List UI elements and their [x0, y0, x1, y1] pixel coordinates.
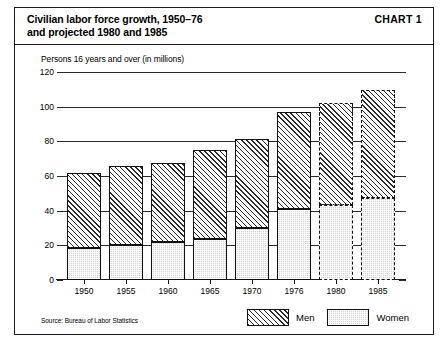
y-axis-tick-right: [399, 72, 406, 73]
y-axis-tick-label: 60: [45, 171, 54, 181]
y-axis-tick: [57, 107, 63, 108]
bar-segment-men: [193, 150, 227, 239]
x-axis-tick-label: 1950: [75, 286, 94, 296]
chart-card: Civilian labor force growth, 1950–76 and…: [14, 7, 434, 335]
y-axis-tick-right: [399, 245, 406, 246]
bar-group: 1960: [151, 163, 185, 280]
bar-group: 1950: [67, 173, 101, 280]
bar-segment-women: [319, 205, 353, 280]
bar-segment-women: [193, 239, 227, 280]
bar-segment-men: [277, 112, 311, 209]
y-axis-tick-right: [399, 280, 406, 281]
bar-group: 1980: [319, 103, 353, 280]
bar-group: 1965: [193, 150, 227, 280]
legend-label: Men: [296, 312, 314, 323]
bar-segment-women: [109, 245, 143, 280]
bar-segment-women: [67, 248, 101, 280]
x-axis-tick: [378, 280, 379, 284]
bar-group: 1985: [361, 90, 395, 280]
bar-segment-women: [151, 242, 185, 280]
bar-segment-women: [235, 228, 269, 280]
x-axis-tick-label: 1965: [201, 286, 220, 296]
bar-chart-plot: 0204060801001201950195519601965197019761…: [63, 72, 399, 280]
bar-segment-women: [277, 209, 311, 280]
legend-swatch-men: [247, 309, 289, 326]
bar-segment-men: [67, 173, 101, 248]
y-axis-unit-note: Persons 16 years and over (in millions): [41, 54, 184, 64]
legend-item: Women: [327, 309, 409, 326]
bar-segment-men: [319, 103, 353, 205]
bar-segment-men: [361, 90, 395, 197]
x-axis-tick-label: 1955: [117, 286, 136, 296]
x-axis-tick: [336, 280, 337, 284]
chart-number-label: CHART 1: [374, 13, 422, 25]
y-axis-tick-label: 40: [45, 206, 54, 216]
y-axis-tick-right: [399, 176, 406, 177]
bar-group: 1955: [109, 166, 143, 280]
y-axis-tick-label: 80: [45, 136, 54, 146]
bar-segment-women: [361, 198, 395, 280]
x-axis-tick-label: 1960: [159, 286, 178, 296]
legend-swatch-women: [327, 309, 369, 326]
x-axis-tick: [294, 280, 295, 284]
y-axis-tick-label: 120: [40, 67, 54, 77]
x-axis-tick-label: 1980: [327, 286, 346, 296]
bar-segment-men: [109, 166, 143, 245]
y-axis-tick-label: 20: [45, 240, 54, 250]
x-axis-tick-label: 1976: [285, 286, 304, 296]
plot-area-wrapper: Persons 16 years and over (in millions) …: [15, 45, 433, 334]
x-axis-tick: [168, 280, 169, 284]
bar-group: 1970: [235, 139, 269, 280]
y-axis-tick: [57, 176, 63, 177]
y-axis-tick-right: [399, 141, 406, 142]
page-title: Civilian labor force growth, 1950–76 and…: [27, 13, 203, 38]
y-axis-tick: [57, 245, 63, 246]
y-axis-tick-right: [399, 211, 406, 212]
source-note: Source: Bureau of Labor Statistics: [41, 317, 138, 324]
x-axis-tick-label: 1985: [369, 286, 388, 296]
y-axis-tick: [57, 72, 63, 73]
y-axis-tick: [57, 280, 63, 281]
y-axis-tick-label: 0: [49, 275, 54, 285]
y-gridline: [63, 72, 399, 73]
legend-item: Men: [247, 309, 314, 326]
bar-segment-men: [235, 139, 269, 228]
x-axis-tick: [210, 280, 211, 284]
bar-group: 1976: [277, 112, 311, 280]
chart-legend: MenWomen: [247, 309, 409, 326]
legend-label: Women: [376, 312, 409, 323]
x-axis-tick: [252, 280, 253, 284]
y-axis-tick: [57, 211, 63, 212]
y-axis-tick: [57, 141, 63, 142]
chart-title-bar: Civilian labor force growth, 1950–76 and…: [15, 8, 433, 45]
y-axis-tick-right: [399, 107, 406, 108]
x-axis-tick: [126, 280, 127, 284]
x-axis-tick-label: 1970: [243, 286, 262, 296]
bar-segment-men: [151, 163, 185, 242]
y-axis-tick-label: 100: [40, 102, 54, 112]
x-axis-tick: [84, 280, 85, 284]
